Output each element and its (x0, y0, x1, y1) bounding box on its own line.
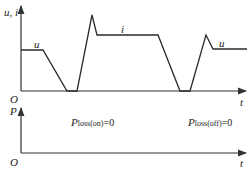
bottom-origin-label: O (10, 157, 18, 168)
u-label-left: u (34, 39, 40, 50)
top-origin-label: O (10, 94, 18, 105)
p-loss-off-subscript: loss(off) (195, 119, 222, 128)
p-loss-off-annotation: Ploss(off)=0 (188, 117, 232, 128)
switching-waveform-diagram (0, 0, 252, 175)
top-x-axis-label: t (240, 97, 243, 108)
p-loss-on-symbol: P (71, 116, 78, 128)
ui-waveform (21, 15, 247, 91)
i-label: i (121, 24, 124, 35)
u-label-right: u (219, 38, 225, 49)
p-loss-off-value: =0 (222, 117, 233, 128)
bottom-x-axis-label: t (240, 158, 243, 169)
p-loss-on-annotation: Ploss(on)=0 (71, 117, 114, 128)
bottom-y-axis-label: P (10, 106, 17, 117)
p-loss-off-symbol: P (188, 116, 195, 128)
top-y-axis-label: u, i (4, 7, 18, 18)
p-loss-on-subscript: loss(on) (78, 119, 104, 128)
p-loss-on-value: =0 (104, 117, 115, 128)
